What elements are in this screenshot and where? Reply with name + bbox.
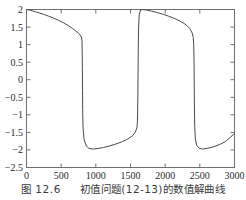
y-axis-tick-labels: 2 1.5 1 0.5 0 −0.5 −1 −1.5 −2 −2.5 [5,4,23,173]
y-tick-label: −2.5 [5,162,23,173]
x-tick-label: 3000 [225,170,245,180]
x-tick-label: 0 [24,170,29,180]
y-tick-label: 0.5 [11,57,24,68]
x-tick-label: 2500 [190,170,210,180]
x-tick-label: 2000 [155,170,175,180]
y-tick-label: 2 [18,4,23,15]
y-tick-label: 1 [18,39,23,50]
y-tick-label: −2 [12,144,23,155]
figure-caption: 图 12.6 初值问题(12-13)的数值解曲线 [0,181,246,196]
figure-container: 2 1.5 1 0.5 0 −0.5 −1 −1.5 −2 −2.5 0 500… [0,0,246,200]
y-tick-label: 1.5 [11,22,24,33]
y-tick-label: −1.5 [5,127,23,138]
caption-number: 图 12.6 [21,183,61,195]
caption-text: 初值问题(12-13)的数值解曲线 [80,183,226,195]
line-chart: 2 1.5 1 0.5 0 −0.5 −1 −1.5 −2 −2.5 0 500… [0,0,246,180]
x-tick-label: 1500 [121,170,141,180]
y-tick-label: −0.5 [5,92,23,103]
y-tick-label: −1 [12,109,23,120]
plot-area: 2 1.5 1 0.5 0 −0.5 −1 −1.5 −2 −2.5 0 500… [0,0,246,180]
axes-frame [27,10,235,168]
x-axis-tick-labels: 0 500 1000 1500 2000 2500 3000 [24,170,245,180]
x-tick-label: 500 [54,170,69,180]
y-tick-label: 0 [18,74,23,85]
x-tick-label: 1000 [86,170,106,180]
caption-spacer [65,183,76,195]
